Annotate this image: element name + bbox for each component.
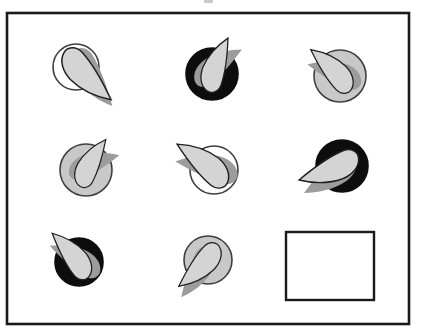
figure-cell-r1c1 — [53, 43, 124, 114]
figure-cell-r1c3 — [302, 41, 366, 102]
figure-cell-r2c3 — [295, 140, 368, 204]
figure-cell-r2c1 — [60, 134, 123, 196]
figure-cell-r3c1 — [43, 226, 106, 286]
figure-cell-r1c2 — [186, 34, 249, 100]
puzzle-page — [0, 0, 421, 334]
figure-cell-r3c2 — [170, 236, 232, 303]
figure-cell-r2c2 — [169, 134, 240, 194]
answer-box-rect — [286, 232, 374, 300]
cropped-glyph-artifact — [204, 0, 213, 3]
puzzle-figure — [0, 0, 421, 334]
answer-box — [286, 232, 374, 300]
